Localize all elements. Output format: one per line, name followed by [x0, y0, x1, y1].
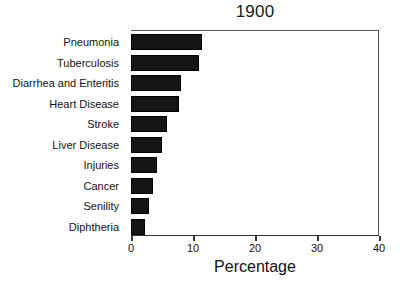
bar — [131, 55, 199, 71]
bar — [131, 137, 162, 153]
category-label: Tuberculosis — [0, 55, 125, 71]
x-tick-label: 20 — [235, 242, 275, 254]
category-label: Diphtheria — [0, 219, 125, 235]
bar-chart-figure: 1900 PneumoniaTuberculosisDiarrhea and E… — [0, 0, 408, 287]
category-label: Diarrhea and Enteritis — [0, 75, 125, 91]
x-axis-title: Percentage — [131, 258, 379, 276]
x-tick — [193, 236, 195, 241]
bar — [131, 178, 153, 194]
bar — [131, 34, 202, 50]
category-label: Liver Disease — [0, 137, 125, 153]
category-label: Heart Disease — [0, 96, 125, 112]
x-tick-label: 30 — [297, 242, 337, 254]
category-label: Stroke — [0, 116, 125, 132]
category-label: Injuries — [0, 157, 125, 173]
x-tick — [255, 236, 257, 241]
bar — [131, 75, 181, 91]
bar — [131, 219, 145, 235]
category-label: Cancer — [0, 178, 125, 194]
x-tick — [131, 236, 133, 241]
x-tick-label: 40 — [359, 242, 399, 254]
bar — [131, 198, 149, 214]
bar — [131, 96, 179, 112]
chart-title: 1900 — [131, 2, 379, 22]
x-tick — [317, 236, 319, 241]
bar — [131, 157, 157, 173]
category-label: Senility — [0, 198, 125, 214]
x-tick-label: 0 — [111, 242, 151, 254]
bar — [131, 116, 167, 132]
x-tick — [379, 236, 381, 241]
x-tick-label: 10 — [173, 242, 213, 254]
category-label: Pneumonia — [0, 34, 125, 50]
